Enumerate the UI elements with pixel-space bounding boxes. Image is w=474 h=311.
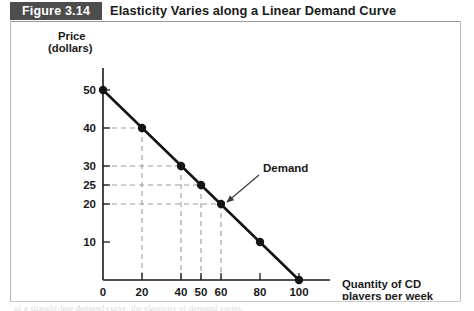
x-axis-tick-labels: 0 20 40 50 60 80 100 xyxy=(100,286,309,298)
y-tick-label-30: 30 xyxy=(83,160,96,172)
x-axis-ticks xyxy=(142,273,299,280)
data-point-20-40 xyxy=(138,124,146,132)
data-point-40-30 xyxy=(177,162,185,170)
figure-frame-bottom-border xyxy=(10,301,461,302)
y-axis-label-line2: (dollars) xyxy=(48,42,93,54)
x-tick-label-50: 50 xyxy=(195,286,208,298)
figure-header: Figure 3.14 Elasticity Varies along a Li… xyxy=(0,0,474,22)
data-point-100-0 xyxy=(295,276,303,284)
demand-annotation-label: Demand xyxy=(263,162,308,174)
figure-number-badge: Figure 3.14 xyxy=(10,2,102,20)
x-tick-label-40: 40 xyxy=(175,286,188,298)
demand-curve-chart: Price (dollars) 50 xyxy=(0,20,474,300)
x-tick-label-0: 0 xyxy=(100,286,106,298)
demand-annotation: Demand xyxy=(227,162,308,202)
y-tick-label-10: 10 xyxy=(83,236,96,248)
figure-title: Elasticity Varies along a Linear Demand … xyxy=(110,3,396,18)
y-axis-ticks xyxy=(103,90,110,242)
x-tick-label-100: 100 xyxy=(289,286,308,298)
demand-leader-arrow xyxy=(227,175,259,202)
y-tick-label-25: 25 xyxy=(83,179,96,191)
y-tick-label-40: 40 xyxy=(83,122,96,134)
x-tick-label-60: 60 xyxy=(215,286,228,298)
data-point-80-10 xyxy=(256,238,264,246)
data-point-60-20 xyxy=(217,200,225,208)
y-tick-label-20: 20 xyxy=(83,198,96,210)
figure-container: Figure 3.14 Elasticity Varies along a Li… xyxy=(0,0,474,311)
x-axis-label-line1: Quantity of CD xyxy=(342,278,421,290)
bottom-clipped-caption: of a straight-line demand curve, the ela… xyxy=(14,303,454,311)
y-axis-label-line1: Price xyxy=(58,30,86,42)
y-tick-label-50: 50 xyxy=(83,84,96,96)
data-point-50-25 xyxy=(197,181,205,189)
x-axis-label-line2: players per week xyxy=(342,290,434,300)
grid-guides xyxy=(103,128,221,280)
data-point-0-50 xyxy=(99,86,107,94)
y-axis-tick-labels: 50 40 30 25 20 10 xyxy=(83,84,96,248)
x-tick-label-80: 80 xyxy=(254,286,267,298)
x-tick-label-20: 20 xyxy=(136,286,149,298)
